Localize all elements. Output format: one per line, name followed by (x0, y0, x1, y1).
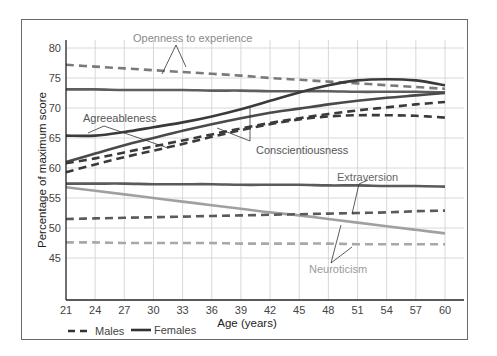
annotation-neuroticism: Neuroticism (309, 225, 367, 275)
legend: Males Females (68, 324, 197, 337)
y-tick-label: 60 (49, 162, 61, 174)
legend-females-label: Females (154, 324, 197, 336)
y-tick-label: 45 (49, 252, 61, 264)
y-axis-ticks: 4550556065707580 (49, 42, 61, 264)
x-tick-label: 27 (118, 304, 130, 316)
x-tick-label: 57 (410, 304, 422, 316)
neuroticism-males-line (66, 242, 445, 244)
x-axis-ticks: 2124273033363942454851545760 (60, 304, 451, 316)
openness-to-experience-females-line (66, 89, 445, 92)
x-tick-label: 45 (293, 304, 305, 316)
x-tick-label: 33 (176, 304, 188, 316)
svg-text:Neuroticism: Neuroticism (309, 263, 367, 275)
x-tick-label: 51 (351, 304, 363, 316)
y-tick-label: 80 (49, 42, 61, 54)
x-tick-label: 60 (439, 304, 451, 316)
extraversion-females-line (66, 184, 445, 187)
openness-to-experience-males-line (66, 65, 445, 89)
svg-text:Agreeableness: Agreeableness (83, 112, 157, 124)
y-tick-label: 65 (49, 132, 61, 144)
x-tick-label: 24 (89, 304, 101, 316)
x-tick-label: 30 (147, 304, 159, 316)
x-tick-label: 48 (322, 304, 334, 316)
y-tick-label: 50 (49, 222, 61, 234)
line-chart: 4550556065707580 21242730333639424548515… (0, 0, 497, 356)
annotation-openness: Openness to experience (133, 32, 252, 74)
annotation-extraversion: Extraversion (337, 171, 398, 214)
x-tick-label: 42 (264, 304, 276, 316)
annotation-agreeableness: Agreeableness (83, 112, 168, 148)
svg-text:Conscientiousness: Conscientiousness (256, 144, 349, 156)
neuroticism-females-line (66, 187, 445, 233)
y-axis-label: Percentage of maximum score (36, 92, 48, 248)
y-tick-label: 70 (49, 102, 61, 114)
x-tick-label: 54 (381, 304, 393, 316)
svg-text:Openness to experience: Openness to experience (133, 32, 252, 44)
x-tick-label: 36 (206, 304, 218, 316)
x-tick-label: 21 (60, 304, 72, 316)
y-tick-label: 55 (49, 192, 61, 204)
legend-males-label: Males (95, 325, 125, 337)
y-tick-label: 75 (49, 72, 61, 84)
x-tick-label: 39 (235, 304, 247, 316)
svg-text:Extraversion: Extraversion (337, 171, 398, 183)
x-axis-label: Age (years) (217, 317, 277, 329)
